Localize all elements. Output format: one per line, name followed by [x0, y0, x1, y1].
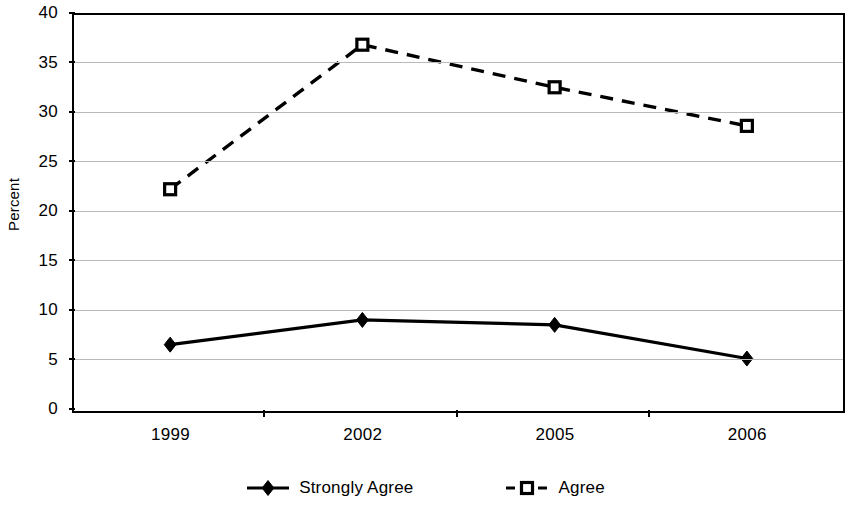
y-axis-tick-labels: 0510152025303540 — [12, 0, 58, 430]
data-point-marker — [741, 120, 752, 131]
gridline — [74, 112, 843, 113]
y-axis-tick-label: 10 — [12, 301, 58, 318]
y-axis-tick-mark — [69, 12, 75, 14]
series-line — [170, 45, 747, 190]
gridline — [74, 359, 843, 360]
y-axis-tick-label: 0 — [12, 400, 58, 417]
y-axis-tick-mark — [69, 358, 75, 360]
y-axis-tick-mark — [69, 408, 75, 410]
y-axis-tick-label: 5 — [12, 351, 58, 368]
x-axis-tick-mark — [456, 410, 458, 417]
plot-area — [72, 13, 845, 413]
legend-entry[interactable]: Agree — [505, 478, 604, 498]
x-axis-tick-label: 2005 — [510, 425, 600, 445]
y-axis-tick-mark — [69, 111, 75, 113]
gridline — [74, 62, 843, 63]
series-line — [170, 320, 747, 359]
x-axis-tick-label: 1999 — [126, 425, 216, 445]
x-axis-tick-mark — [648, 410, 650, 417]
x-axis-tick-mark — [263, 410, 265, 417]
y-axis-tick-label: 20 — [12, 202, 58, 219]
legend-label: Agree — [558, 478, 604, 498]
data-point-marker — [549, 317, 561, 332]
data-point-marker — [549, 82, 560, 93]
legend-marker-icon — [505, 480, 549, 496]
y-axis-tick-mark — [69, 160, 75, 162]
y-axis-tick-label: 40 — [12, 4, 58, 21]
data-point-marker — [522, 483, 533, 494]
x-axis-tick-label: 2002 — [318, 425, 408, 445]
data-point-marker — [357, 312, 369, 327]
legend-label: Strongly Agree — [299, 478, 413, 498]
data-point-marker — [164, 337, 176, 352]
y-axis-tick-mark — [69, 61, 75, 63]
x-axis-tick-label: 2006 — [702, 425, 792, 445]
legend-marker-icon — [246, 480, 290, 496]
gridline — [74, 260, 843, 261]
y-axis-tick-label: 30 — [12, 103, 58, 120]
data-point-marker — [357, 39, 368, 50]
y-axis-tick-mark — [69, 309, 75, 311]
series-layer — [74, 15, 843, 411]
gridline — [74, 310, 843, 311]
data-point-marker — [262, 481, 274, 496]
data-point-marker — [165, 184, 176, 195]
line-chart: Percent 0510152025303540 199920022005200… — [0, 0, 851, 515]
y-axis-tick-mark — [69, 210, 75, 212]
y-axis-tick-label: 15 — [12, 252, 58, 269]
y-axis-tick-mark — [69, 259, 75, 261]
y-axis-tick-label: 35 — [12, 54, 58, 71]
gridline — [74, 161, 843, 162]
gridline — [74, 211, 843, 212]
legend-entry[interactable]: Strongly Agree — [246, 478, 413, 498]
chart-legend: Strongly AgreeAgree — [0, 478, 851, 498]
y-axis-tick-label: 25 — [12, 153, 58, 170]
